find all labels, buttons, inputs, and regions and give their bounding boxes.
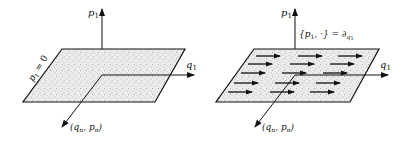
q1-axis-label: q1 <box>380 59 391 72</box>
qn-pn-axis-label: (qn, pn) <box>262 122 295 133</box>
qn-pn-axis-label: (qn, pn) <box>70 122 103 133</box>
p1-axis-label: p1 <box>281 7 292 20</box>
hamiltonian-flow-diagram: p1 q1 (qn, pn) p1 = 0 p1 q1 <box>0 0 407 141</box>
q1-axis-label: q1 <box>186 59 197 72</box>
left-panel: p1 q1 (qn, pn) p1 = 0 <box>23 7 197 133</box>
poisson-bracket-label: {p1, ·} = ∂q1 <box>299 29 354 41</box>
right-panel: p1 q1 (qn, pn) {p1, ·} = ∂q1 <box>216 7 391 133</box>
p1-axis-label: p1 <box>88 7 99 20</box>
